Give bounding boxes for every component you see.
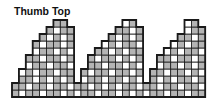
chart-cell [185,83,192,90]
chart-cell [171,76,178,83]
chart-cell [33,55,40,62]
chart-cell [109,48,116,55]
chart-cell [95,55,102,62]
chart-cell [53,62,60,69]
chart-cell [116,83,123,90]
chart-cell [40,62,47,69]
chart-cell [60,83,67,90]
chart-cell [33,48,40,55]
chart-cell [19,69,26,76]
chart-cell [178,55,185,62]
chart-cell [81,90,88,97]
chart-cell [26,83,33,90]
chart-cell [60,34,67,41]
chart-cell [47,55,54,62]
chart-cell [116,90,123,97]
chart-cell [67,55,74,62]
chart-cell [60,62,67,69]
chart-cell [26,90,33,97]
chart-cell [33,76,40,83]
chart-cell [129,48,136,55]
chart-cell [191,55,198,62]
chart-cell [116,48,123,55]
chart-cell [129,20,136,27]
chart-cell [81,83,88,90]
chart-cell [95,83,102,90]
chart-cell [178,48,185,55]
chart-cell [95,69,102,76]
chart-cell [171,55,178,62]
chart-cell [33,69,40,76]
chart-cell [191,34,198,41]
chart-cell [81,76,88,83]
chart-cell [198,83,205,90]
chart-cell [40,55,47,62]
chart-cell [67,41,74,48]
chart-cell [178,41,185,48]
chart-cell [198,76,205,83]
chart-cell [129,69,136,76]
chart-cell [102,90,109,97]
chart-cell [122,20,129,27]
chart-cell [143,83,150,90]
chart-cell [40,34,47,41]
chart-cell [95,48,102,55]
chart-cell [109,83,116,90]
chart-cell [191,48,198,55]
chart-cell [122,62,129,69]
chart-cell [164,62,171,69]
chart-cell [164,90,171,97]
chart-cell [102,55,109,62]
chart-cell [53,83,60,90]
chart-cell [198,34,205,41]
chart-cell [60,55,67,62]
chart-cell [40,90,47,97]
chart-cell [185,62,192,69]
chart-cell [60,48,67,55]
chart-cell [122,41,129,48]
chart-cell [116,76,123,83]
chart-cell [60,76,67,83]
chart-cell [116,69,123,76]
chart-cell [191,69,198,76]
chart-cell [95,62,102,69]
chart-cell [157,69,164,76]
chart-cell [129,76,136,83]
chart-cell [47,62,54,69]
chart-cell [60,27,67,34]
chart-cell [178,90,185,97]
chart-cell [109,69,116,76]
chart-cell [191,90,198,97]
knitting-chart-grid [0,0,217,106]
chart-cell [185,20,192,27]
chart-cell [185,69,192,76]
chart-cell [191,20,198,27]
chart-cell [198,90,205,97]
chart-cell [102,48,109,55]
chart-cell [40,69,47,76]
chart-cell [47,69,54,76]
chart-cell [95,76,102,83]
chart-cell [198,48,205,55]
chart-cell [129,83,136,90]
chart-cell [164,55,171,62]
chart-cell [198,27,205,34]
chart-cell [53,34,60,41]
chart-cell [67,62,74,69]
chart-cell [26,62,33,69]
chart-cell [95,90,102,97]
chart-cell [185,27,192,34]
chart-cell [157,83,164,90]
chart-cell [164,83,171,90]
chart-cell [60,69,67,76]
chart-cell [178,83,185,90]
chart-cell [122,90,129,97]
chart-cell [198,41,205,48]
chart-cell [136,83,143,90]
chart-cell [33,83,40,90]
chart-cell [19,90,26,97]
chart-cell [136,55,143,62]
chart-cell [26,69,33,76]
chart-cell [122,69,129,76]
chart-cell [40,48,47,55]
